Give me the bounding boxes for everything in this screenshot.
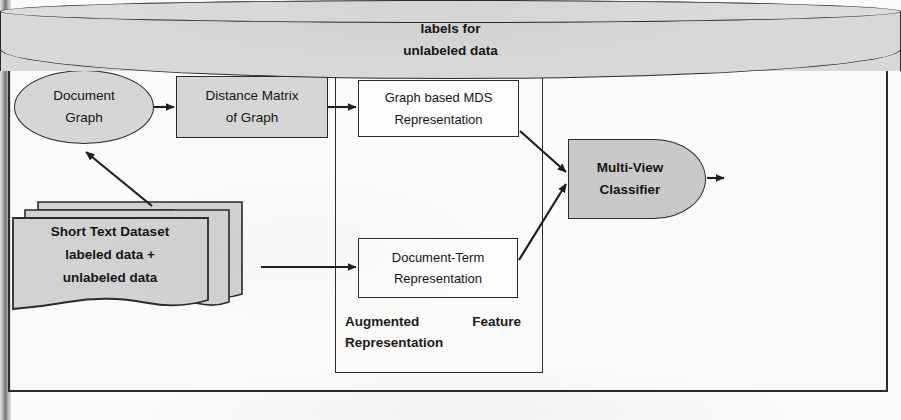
representation-word: Representation: [345, 333, 535, 354]
labels-store-label: labels for unlabeled data: [0, 18, 901, 62]
output-store-line2: unlabeled data: [0, 40, 901, 62]
distance-matrix-line2: of Graph: [226, 107, 279, 129]
node-multi-view-classifier[interactable]: Multi-View Classifier: [568, 139, 706, 219]
node-labels-for-unlabeled-data[interactable]: labels for unlabeled data: [0, 0, 144, 82]
diagram-canvas: Transductive Scenario Augmented Feature …: [0, 0, 901, 420]
classifier-line1: Multi-View: [597, 157, 664, 179]
augmented-word: Augmented: [345, 312, 419, 333]
node-graph-based-mds-representation[interactable]: Graph based MDS Representation: [358, 80, 519, 137]
graph-mds-line1: Graph based MDS: [385, 87, 493, 108]
feature-word: Feature: [472, 312, 521, 333]
classifier-line2: Classifier: [600, 179, 661, 201]
dataset-line2: labeled data +: [12, 243, 208, 266]
graph-mds-line2: Representation: [394, 109, 482, 130]
node-document-term-representation[interactable]: Document-Term Representation: [358, 238, 518, 298]
augmented-feature-representation-label: Augmented Feature Representation: [345, 312, 535, 354]
document-graph-line2: Graph: [65, 107, 103, 129]
node-distance-matrix-of-graph[interactable]: Distance Matrix of Graph: [176, 76, 328, 138]
output-store-line1: labels for: [0, 18, 901, 40]
node-document-graph[interactable]: Document Graph: [14, 70, 154, 144]
short-text-dataset-label: Short Text Dataset labeled data + unlabe…: [12, 220, 208, 290]
document-term-line1: Document-Term: [392, 247, 484, 268]
dataset-line3: unlabeled data: [12, 266, 208, 289]
node-short-text-dataset[interactable]: Short Text Dataset labeled data + unlabe…: [12, 198, 244, 313]
dataset-line1: Short Text Dataset: [12, 220, 208, 243]
distance-matrix-line1: Distance Matrix: [205, 85, 298, 107]
document-term-line2: Representation: [394, 268, 482, 289]
document-graph-line1: Document: [53, 85, 115, 107]
